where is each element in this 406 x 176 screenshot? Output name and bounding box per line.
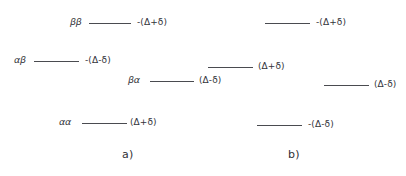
energy-level-panel-b-row-4: -(Δ-δ)	[257, 116, 334, 132]
energy-level-panel-a-row-4: αα(Δ+δ)	[59, 114, 157, 130]
energy-value-label: (Δ+δ)	[127, 118, 157, 127]
energy-level-panel-a-row-3: βα(Δ-δ)	[128, 72, 221, 88]
energy-value-label: (Δ-δ)	[194, 76, 221, 85]
energy-level-panel-b-row-2: (Δ+δ)	[208, 58, 285, 74]
energy-value-label: (Δ+δ)	[253, 62, 285, 71]
level-line	[324, 85, 369, 86]
panel-caption-b: b)	[288, 148, 300, 161]
energy-level-diagram: ββ-(Δ+δ)αβ-(Δ-δ)βα(Δ-δ)αα(Δ+δ)a)-(Δ+δ)(Δ…	[0, 0, 406, 176]
spin-state-label: βα	[128, 75, 150, 85]
level-line	[150, 81, 194, 82]
level-line	[257, 125, 302, 126]
energy-value-label: -(Δ-δ)	[79, 56, 111, 65]
energy-value-label: -(Δ-δ)	[302, 120, 334, 129]
energy-value-label: (Δ-δ)	[369, 80, 396, 89]
level-line	[208, 67, 253, 68]
energy-level-panel-b-row-3: (Δ-δ)	[324, 76, 396, 92]
energy-level-panel-b-row-1: -(Δ+δ)	[265, 14, 346, 30]
energy-level-panel-a-row-2: αβ-(Δ-δ)	[14, 52, 111, 68]
spin-state-label: αβ	[14, 55, 34, 65]
energy-value-label: -(Δ+δ)	[131, 18, 167, 27]
spin-state-label: ββ	[70, 17, 89, 27]
level-line	[34, 61, 79, 62]
level-line	[82, 123, 127, 124]
level-line	[89, 23, 131, 24]
spin-state-label: αα	[59, 117, 82, 127]
level-line	[265, 23, 310, 24]
energy-value-label: -(Δ+δ)	[310, 18, 346, 27]
energy-level-panel-a-row-1: ββ-(Δ+δ)	[70, 14, 167, 30]
panel-caption-a: a)	[122, 148, 133, 161]
